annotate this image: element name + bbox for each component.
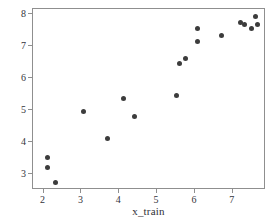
data-point bbox=[195, 26, 200, 31]
y-tick-label: 8 bbox=[21, 7, 26, 18]
y-axis-ticks: 345678 bbox=[0, 8, 32, 189]
scatter-plot-figure: 234567 345678 x_train y_train bbox=[0, 0, 275, 223]
plot-frame bbox=[32, 8, 265, 189]
x-tick-mark bbox=[80, 189, 81, 193]
x-tick-mark bbox=[43, 189, 44, 193]
x-tick-mark bbox=[156, 189, 157, 193]
y-tick-mark bbox=[28, 77, 32, 78]
x-tick-label: 3 bbox=[78, 194, 83, 205]
x-tick-mark bbox=[118, 189, 119, 193]
plot-area bbox=[33, 9, 264, 188]
y-tick-label: 4 bbox=[21, 135, 26, 146]
data-point bbox=[53, 180, 58, 185]
data-point bbox=[177, 61, 182, 66]
data-point bbox=[249, 26, 254, 31]
data-point bbox=[105, 136, 110, 141]
data-point bbox=[242, 22, 247, 27]
y-tick-mark bbox=[28, 13, 32, 14]
data-point bbox=[253, 14, 258, 19]
data-point bbox=[183, 56, 188, 61]
data-point bbox=[255, 22, 260, 27]
data-point bbox=[121, 96, 126, 101]
y-tick-label: 5 bbox=[21, 103, 26, 114]
y-tick-mark bbox=[28, 109, 32, 110]
data-point bbox=[174, 93, 179, 98]
x-axis-label: x_train bbox=[32, 205, 265, 217]
data-point bbox=[45, 165, 50, 170]
x-tick-label: 5 bbox=[154, 194, 159, 205]
x-tick-label: 7 bbox=[229, 194, 234, 205]
x-tick-label: 4 bbox=[116, 194, 121, 205]
y-tick-label: 3 bbox=[21, 167, 26, 178]
x-tick-label: 6 bbox=[191, 194, 196, 205]
data-point bbox=[195, 39, 200, 44]
y-tick-label: 7 bbox=[21, 39, 26, 50]
data-point bbox=[132, 114, 137, 119]
y-tick-label: 6 bbox=[21, 71, 26, 82]
x-tick-mark bbox=[232, 189, 233, 193]
y-tick-mark bbox=[28, 141, 32, 142]
y-tick-mark bbox=[28, 45, 32, 46]
y-tick-mark bbox=[28, 173, 32, 174]
data-point bbox=[81, 109, 86, 114]
x-tick-label: 2 bbox=[40, 194, 45, 205]
data-point bbox=[45, 155, 50, 160]
data-point bbox=[219, 33, 224, 38]
x-tick-mark bbox=[194, 189, 195, 193]
